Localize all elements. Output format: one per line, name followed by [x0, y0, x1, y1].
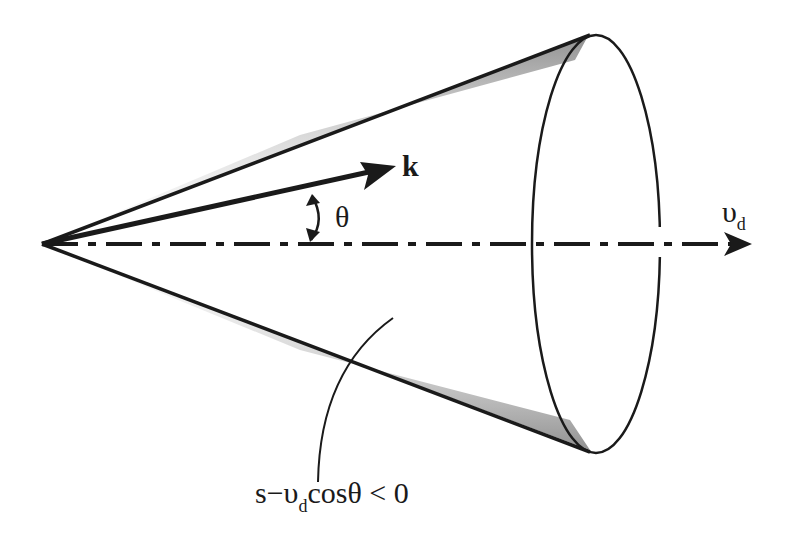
label-condition: s−υdcosθ < 0 — [255, 476, 409, 516]
angle-arc-arrow-top — [306, 194, 320, 206]
cone-lower-edge — [42, 244, 590, 452]
label-theta: θ — [335, 200, 349, 233]
ellipse-gap — [652, 227, 666, 257]
cone-upper-edge — [42, 35, 590, 244]
cone-diagram: k θ υd s−υdcosθ < 0 — [0, 0, 786, 546]
leader-line — [318, 318, 393, 482]
wave-vector-arrowhead — [360, 162, 396, 190]
label-velocity: υd — [722, 195, 746, 234]
label-k: k — [402, 149, 419, 182]
